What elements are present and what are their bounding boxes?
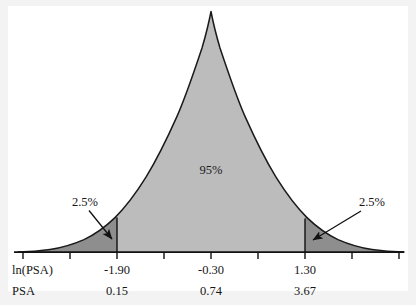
ln-psa-value-center: -0.30 (198, 263, 224, 277)
right-tail-label: 2.5% (359, 195, 385, 209)
figure-container: 95% 2.5% 2.5% ln(PSA) -1.90 -0.30 1.30 P… (0, 0, 416, 305)
x-axis-ticks (23, 252, 399, 259)
ln-psa-value-lower: -1.90 (104, 263, 130, 277)
psa-row-label: PSA (12, 284, 35, 298)
right-callout-arrow (313, 211, 361, 240)
psa-value-upper: 3.67 (294, 284, 316, 298)
distribution-chart: 95% 2.5% 2.5% ln(PSA) -1.90 -0.30 1.30 P… (0, 0, 416, 305)
psa-value-center: 0.74 (200, 284, 223, 298)
ln-psa-value-upper: 1.30 (294, 263, 316, 277)
central-area (18, 12, 404, 253)
central-region-label: 95% (200, 163, 223, 177)
psa-value-lower: 0.15 (106, 284, 128, 298)
left-tail-label: 2.5% (72, 195, 98, 209)
curve-fill-group (18, 12, 404, 253)
ln-psa-row-label: ln(PSA) (12, 263, 53, 277)
chart-canvas: 95% 2.5% 2.5% ln(PSA) -1.90 -0.30 1.30 P… (0, 0, 416, 305)
